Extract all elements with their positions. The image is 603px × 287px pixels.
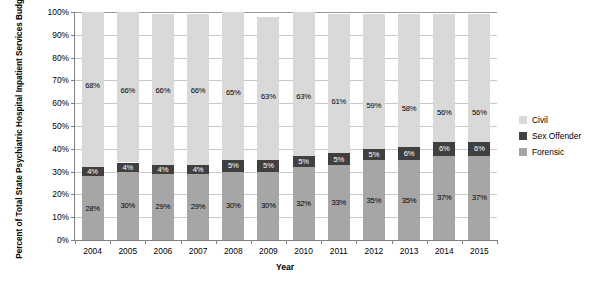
bar-segment-sex-offender[interactable]: 4% (117, 163, 139, 172)
bar-segment-sex-offender[interactable]: 4% (82, 167, 104, 176)
bar-segment-label-civil: 56% (468, 108, 490, 117)
bar-segment-label-civil: 66% (152, 86, 174, 95)
x-tick-label: 2010 (284, 246, 324, 256)
x-axis-title: Year (74, 262, 496, 272)
bar-segment-forensic[interactable]: 30% (222, 172, 244, 240)
bar-group[interactable]: 29%4%66% (187, 12, 209, 240)
bar-group[interactable]: 37%6%56% (468, 12, 490, 240)
x-tick-mark (356, 240, 357, 244)
bar-segment-sex-offender[interactable]: 5% (257, 160, 279, 171)
bar-segment-forensic[interactable]: 29% (187, 174, 209, 240)
legend: CivilSex OffenderForensic (519, 112, 603, 160)
bar-segment-sex-offender[interactable]: 5% (222, 160, 244, 171)
bar-segment-civil[interactable] (222, 12, 244, 160)
y-axis-title-text: Percent of Total State Psychiatric Hospi… (15, 0, 26, 258)
bar-group[interactable]: 30%5%65% (222, 12, 244, 240)
bar-segment-civil[interactable] (328, 14, 350, 153)
bar-segment-label: 5% (369, 150, 380, 159)
bar-segment-label: 30% (226, 201, 241, 210)
x-tick-mark (427, 240, 428, 244)
bar-group[interactable]: 28%4%68% (82, 12, 104, 240)
x-tick-label: 2014 (424, 246, 464, 256)
bar-group[interactable]: 30%4%66% (117, 12, 139, 240)
bar-segment-label: 5% (298, 157, 309, 166)
stacked-bar-chart: Percent of Total State Psychiatric Hospi… (0, 0, 603, 287)
bar-segment-forensic[interactable]: 32% (293, 167, 315, 240)
bar-segment-sex-offender[interactable]: 6% (398, 147, 420, 161)
bar-segment-forensic[interactable]: 35% (398, 160, 420, 240)
bar-segment-label: 5% (333, 155, 344, 164)
legend-item[interactable]: Sex Offender (519, 128, 603, 144)
bar-segment-label-civil: 68% (82, 81, 104, 90)
legend-label: Sex Offender (532, 131, 581, 141)
bar-segment-forensic[interactable]: 35% (363, 160, 385, 240)
bar-segment-forensic[interactable]: 29% (152, 174, 174, 240)
bar-group[interactable]: 30%5%63% (257, 12, 279, 240)
bar-segment-sex-offender[interactable]: 6% (468, 142, 490, 156)
bar-segment-forensic[interactable]: 30% (257, 172, 279, 240)
bar-segment-label-civil: 63% (257, 92, 279, 101)
x-tick-mark (181, 240, 182, 244)
y-tick-label: 10% (35, 212, 69, 222)
y-tick-label: 60% (35, 98, 69, 108)
bar-group[interactable]: 35%6%58% (398, 12, 420, 240)
bar-segment-civil[interactable] (398, 14, 420, 146)
bar-segment-sex-offender[interactable]: 5% (363, 149, 385, 160)
bar-segment-civil[interactable] (293, 12, 315, 156)
bar-segment-label-civil: 66% (117, 86, 139, 95)
x-tick-mark (286, 240, 287, 244)
bar-segment-civil[interactable] (433, 14, 455, 142)
bar-segment-sex-offender[interactable]: 5% (293, 156, 315, 167)
bar-group[interactable]: 32%5%63% (293, 12, 315, 240)
bar-group[interactable]: 37%6%56% (433, 12, 455, 240)
legend-swatch-icon (519, 132, 527, 140)
bar-group[interactable]: 29%4%66% (152, 12, 174, 240)
x-tick-label: 2004 (73, 246, 113, 256)
y-tick-label: 40% (35, 144, 69, 154)
bar-segment-forensic[interactable]: 30% (117, 172, 139, 240)
bar-segment-label: 29% (191, 202, 206, 211)
bar-segment-civil[interactable] (468, 14, 490, 142)
legend-item[interactable]: Forensic (519, 144, 603, 160)
x-tick-label: 2007 (178, 246, 218, 256)
bar-segment-label-civil: 58% (398, 104, 420, 113)
bar-segment-label: 5% (228, 161, 239, 170)
legend-item[interactable]: Civil (519, 112, 603, 128)
bar-group[interactable]: 35%5%59% (363, 12, 385, 240)
bar-segment-label-civil: 66% (187, 86, 209, 95)
bar-segment-label: 6% (404, 149, 415, 158)
bar-segment-forensic[interactable]: 37% (433, 156, 455, 240)
bar-segment-label: 6% (474, 144, 485, 153)
y-tick-label: 20% (35, 189, 69, 199)
x-tick-mark (110, 240, 111, 244)
bar-segment-label-civil: 65% (222, 88, 244, 97)
bar-segment-label: 6% (439, 144, 450, 153)
bar-segment-label: 33% (331, 198, 346, 207)
y-tick-label: 70% (35, 75, 69, 85)
x-tick-label: 2013 (389, 246, 429, 256)
x-tick-mark (216, 240, 217, 244)
bar-segment-sex-offender[interactable]: 4% (187, 165, 209, 174)
bar-segment-label: 32% (296, 199, 311, 208)
bar-segment-civil[interactable] (363, 14, 385, 149)
bar-segment-sex-offender[interactable]: 4% (152, 165, 174, 174)
x-tick-label: 2005 (108, 246, 148, 256)
x-tick-mark (497, 240, 498, 244)
legend-label: Civil (532, 115, 548, 125)
bar-group[interactable]: 33%5%61% (328, 12, 350, 240)
bar-segment-label-civil: 63% (293, 92, 315, 101)
bar-segment-forensic[interactable]: 33% (328, 165, 350, 240)
bar-segment-civil[interactable] (257, 17, 279, 161)
y-tick-label: 90% (35, 30, 69, 40)
bar-segment-sex-offender[interactable]: 6% (433, 142, 455, 156)
x-tick-mark (75, 240, 76, 244)
bar-segment-forensic[interactable]: 37% (468, 156, 490, 240)
x-tick-label: 2012 (354, 246, 394, 256)
bar-segment-sex-offender[interactable]: 5% (328, 153, 350, 164)
y-tick-label: 50% (35, 121, 69, 131)
bar-segment-label: 4% (193, 165, 204, 174)
x-tick-mark (145, 240, 146, 244)
bar-segment-forensic[interactable]: 28% (82, 176, 104, 240)
plot-area: 0%10%20%30%40%50%60%70%80%90%100% 28%4%6… (74, 12, 497, 241)
bar-segment-label-civil: 61% (328, 97, 350, 106)
